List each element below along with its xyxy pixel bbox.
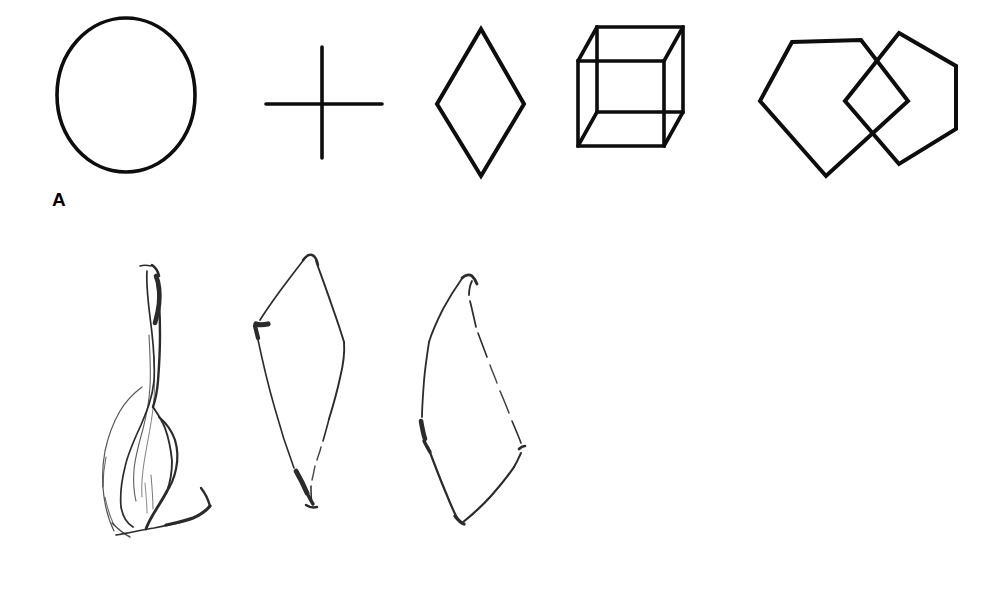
panel-a-shapes: [0, 0, 993, 235]
panel-b: Poor Fair Good B: [0, 235, 993, 592]
fair-drawing-shape: [255, 255, 344, 508]
interlocking-pentagons-shape: [760, 33, 956, 176]
circle-shape: [57, 18, 195, 172]
good-drawing-shape: [421, 275, 525, 524]
cube-shape: [578, 27, 683, 146]
poor-drawing-shape: [103, 265, 210, 537]
cross-shape: [266, 47, 382, 158]
panel-label-a: A: [52, 190, 66, 209]
diamond-shape: [437, 29, 524, 176]
figure-root: A: [0, 0, 993, 592]
panel-b-shapes: [0, 235, 993, 592]
panel-a: A: [0, 0, 993, 235]
